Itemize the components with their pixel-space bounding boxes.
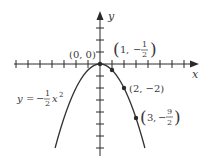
equation-den: 2 [45, 99, 50, 108]
label-point-1: ( 1 , − 1 2 ) [113, 39, 157, 59]
label-point-1-num: 1 [142, 40, 147, 49]
svg-text:,: , [126, 44, 129, 55]
point-3-neg-9-halves [134, 116, 138, 120]
equation-lhs: y [16, 93, 23, 104]
point-2-neg-2 [122, 86, 126, 90]
label-point-1-den: 2 [142, 50, 147, 59]
equation-label: y = − 1 2 x 2 [16, 89, 63, 108]
equation-exp: 2 [59, 91, 63, 99]
svg-text:,: , [153, 112, 156, 123]
equation-neg: − [36, 93, 44, 104]
label-point-1-neg: − [133, 44, 141, 55]
svg-text:): ) [174, 107, 181, 127]
x-axis-label: x [192, 68, 199, 81]
equation-var: x [52, 93, 58, 104]
y-axis-arrow-icon [97, 11, 104, 20]
label-point-3-den: 2 [167, 118, 172, 127]
svg-text:): ) [150, 39, 157, 59]
label-point-3-num: 9 [167, 107, 172, 116]
parabola-graph: y x (0, 0) ( 1 , − 1 2 ) (2, −2) ( 3 , −… [0, 0, 209, 164]
x-axis-arrow-icon [190, 61, 199, 68]
paren-open: ( [113, 39, 120, 59]
label-origin: (0, 0) [69, 49, 96, 60]
equation-num: 1 [45, 89, 50, 98]
point-1-neg-half [110, 68, 114, 72]
svg-text:(: ( [140, 107, 147, 127]
label-point-3-neg: − [158, 112, 166, 123]
equation-equals: = [26, 93, 34, 104]
point-origin [98, 62, 102, 66]
label-point-3: ( 3 , − 9 2 ) [140, 107, 181, 127]
y-axis-label: y [107, 10, 115, 23]
label-point-2: (2, −2) [129, 83, 164, 94]
